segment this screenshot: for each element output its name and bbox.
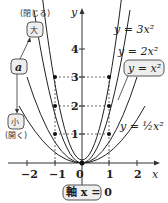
label-3x2: y = 3x²	[113, 23, 154, 36]
x-tick-neg1: −1	[49, 168, 66, 181]
label-2x2: y = 2x²	[117, 45, 158, 58]
x-tick-neg2: −2	[21, 168, 38, 181]
label-half-x2: y = ½x²	[119, 120, 164, 133]
y-tick-2: 2	[71, 100, 79, 113]
label-x2: y = x²	[127, 62, 161, 75]
y-axis-arrow-icon	[80, 8, 85, 14]
large-note: (閉じる)	[20, 9, 50, 18]
y-tick-4: 4	[71, 43, 79, 56]
x-axis-label: x	[152, 168, 159, 181]
origin-label: 0	[76, 168, 84, 181]
a-label: a	[15, 61, 22, 74]
x-tick-2: 2	[134, 168, 142, 181]
y-axis-label: y	[70, 6, 78, 19]
parabola-diagram: −2 −1 1 2 0 x y 1 2 3 4 y = 3x² y = 2x² …	[0, 0, 168, 203]
y-tick-3: 3	[71, 71, 79, 84]
x-tick-1: 1	[106, 168, 114, 181]
large-label: 大	[30, 25, 38, 35]
small-note: (開く)	[5, 131, 27, 140]
x-axis-arrow-icon	[154, 161, 160, 166]
arrow-down-icon	[15, 109, 19, 114]
axis-label: 軸 x = 0	[66, 185, 112, 199]
small-label: 小	[11, 118, 19, 127]
arrow-up-icon	[27, 37, 31, 42]
y-tick-1: 1	[71, 128, 79, 141]
